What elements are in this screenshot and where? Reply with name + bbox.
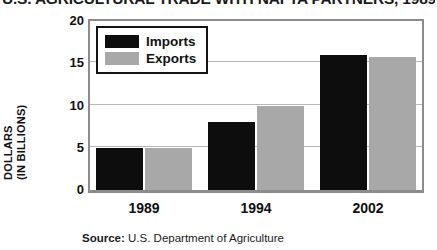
y-tick-label: 20 (44, 14, 84, 27)
y-tick-label: 5 (44, 141, 84, 154)
gridline (90, 104, 422, 105)
y-axis-title-line-1: DOLLARS (2, 125, 14, 180)
legend-label-imports: Imports (146, 35, 196, 49)
legend-item-imports: Imports (105, 33, 196, 50)
x-axis-baseline (88, 190, 424, 193)
y-tick-label: 15 (44, 56, 84, 69)
x-tick-label-2002: 2002 (323, 200, 413, 216)
legend-swatch-exports (105, 52, 139, 65)
legend: Imports Exports (96, 26, 208, 74)
x-tick-label-1994: 1994 (211, 200, 301, 216)
y-axis-title: DOLLARS (IN BILLIONS) (0, 60, 36, 180)
legend-swatch-imports (105, 35, 139, 48)
x-tick-label-1989: 1989 (99, 200, 189, 216)
chart-figure: U.S. AGRICULTURAL TRADE WITH NAFTA PARTN… (0, 0, 437, 250)
y-tick-label: 0 (44, 183, 84, 196)
legend-label-exports: Exports (146, 52, 196, 66)
source-note: Source: U.S. Department of Agriculture (82, 232, 284, 244)
y-axis-title-line-2: (IN BILLIONS) (15, 105, 27, 180)
y-tick-label: 10 (44, 99, 84, 112)
source-label: Source: (82, 232, 125, 244)
y-axis-tick-labels: 20151050 (40, 0, 84, 250)
legend-item-exports: Exports (105, 50, 196, 67)
source-text: U.S. Department of Agriculture (128, 232, 284, 244)
gridline (90, 146, 422, 147)
